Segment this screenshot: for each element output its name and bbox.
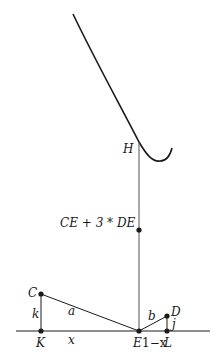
point-e xyxy=(136,328,141,333)
segment-ce xyxy=(41,294,139,331)
point-l xyxy=(164,328,169,333)
label-k-segment: k xyxy=(32,307,39,321)
label-k-point: K xyxy=(35,336,46,350)
label-e: E xyxy=(132,336,142,350)
label-one-minus-x: 1−x xyxy=(142,336,167,350)
label-b: b xyxy=(148,309,156,323)
cost-curve xyxy=(73,14,172,161)
label-marked-point: CE + 3 * DE xyxy=(60,216,136,230)
label-l: L xyxy=(163,336,172,350)
label-a: a xyxy=(68,304,75,318)
point-marked xyxy=(136,227,141,232)
label-h: H xyxy=(122,142,134,156)
label-x: x xyxy=(68,333,75,347)
label-j: j xyxy=(169,317,176,331)
label-c: C xyxy=(28,286,37,300)
diagram-canvas: H CE + 3 * DE C k a K x E 1−x L b D j xyxy=(0,0,224,363)
point-d xyxy=(164,313,169,318)
point-c xyxy=(38,291,43,296)
point-k xyxy=(38,328,43,333)
